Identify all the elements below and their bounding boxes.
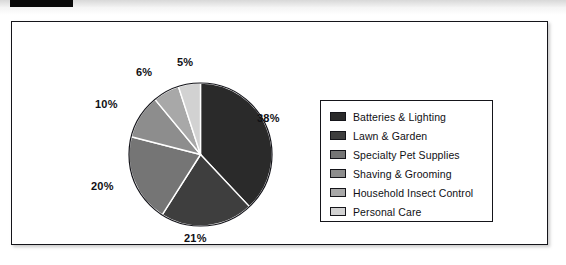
legend-swatch-icon bbox=[330, 207, 346, 216]
pie-label-lawn-garden: 21% bbox=[184, 232, 207, 244]
legend-label: Batteries & Lighting bbox=[353, 111, 446, 123]
pie-label-personal-care: 5% bbox=[177, 56, 193, 68]
legend-swatch-icon bbox=[330, 169, 346, 178]
legend-label: Household Insect Control bbox=[353, 187, 473, 199]
legend: Batteries & Lighting Lawn & Garden Speci… bbox=[320, 100, 493, 222]
legend-label: Specialty Pet Supplies bbox=[353, 149, 460, 161]
chart-frame: 38% 21% 20% 10% 6% 5% Batteries & Lighti… bbox=[11, 21, 548, 245]
legend-swatch-icon bbox=[330, 112, 346, 121]
legend-item-household-insect-control: Household Insect Control bbox=[330, 183, 492, 202]
legend-swatch-icon bbox=[330, 188, 346, 197]
legend-swatch-icon bbox=[330, 150, 346, 159]
pie-chart bbox=[128, 82, 273, 227]
legend-label: Personal Care bbox=[353, 206, 421, 218]
pie-label-specialty-pet-supplies: 20% bbox=[91, 180, 114, 192]
scan-black-bar-artifact bbox=[10, 0, 73, 7]
legend-item-batteries-lighting: Batteries & Lighting bbox=[330, 107, 492, 126]
scan-strip bbox=[0, 0, 566, 7]
pie-label-household-insect-control: 6% bbox=[136, 66, 152, 78]
legend-item-shaving-grooming: Shaving & Grooming bbox=[330, 164, 492, 183]
pie-slice-group bbox=[129, 83, 272, 226]
legend-item-lawn-garden: Lawn & Garden bbox=[330, 126, 492, 145]
legend-label: Lawn & Garden bbox=[353, 130, 427, 142]
pie-label-batteries-lighting: 38% bbox=[257, 112, 280, 124]
pie-svg bbox=[128, 82, 273, 227]
legend-item-specialty-pet-supplies: Specialty Pet Supplies bbox=[330, 145, 492, 164]
legend-swatch-icon bbox=[330, 131, 346, 140]
legend-item-personal-care: Personal Care bbox=[330, 202, 492, 221]
pie-label-shaving-grooming: 10% bbox=[95, 98, 118, 110]
scan-fade-gradient bbox=[0, 7, 566, 15]
legend-label: Shaving & Grooming bbox=[353, 168, 452, 180]
